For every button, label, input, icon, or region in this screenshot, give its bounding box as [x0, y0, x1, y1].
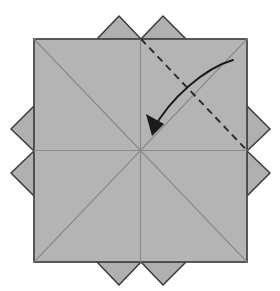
crease-group — [34, 39, 247, 262]
origami-diagram — [0, 0, 280, 291]
origami-figure-svg — [0, 0, 280, 291]
